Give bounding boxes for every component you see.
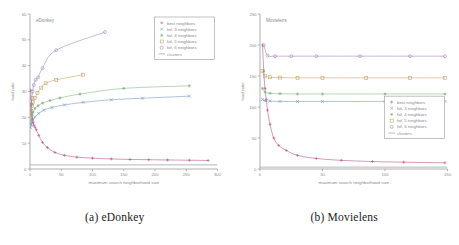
x-tick-label: 100 <box>89 172 97 177</box>
x-tick-label: 50 <box>59 172 64 177</box>
data-point <box>402 161 405 164</box>
data-point <box>207 159 210 162</box>
legend-label: fof, 5 neighbors <box>397 118 427 123</box>
legend-label: fof, 4 neighbors <box>167 33 197 38</box>
series-fof-5-neighbors <box>261 70 447 80</box>
data-point <box>339 159 342 162</box>
data-point <box>110 157 113 160</box>
y-tick-label: 250 <box>249 12 257 17</box>
x-tick-label: 150 <box>444 172 452 177</box>
legend-marker <box>160 34 163 37</box>
data-point <box>272 137 275 140</box>
data-point <box>188 159 191 162</box>
y-tick-label: 50 <box>251 136 256 141</box>
data-point <box>122 87 125 90</box>
y-axis-label: load ratio <box>240 82 245 101</box>
series-fof-4-neighbors <box>29 84 191 125</box>
x-tick-label: 150 <box>120 172 128 177</box>
plot-title-annotation: eDonkey <box>36 18 55 23</box>
data-point <box>296 154 299 157</box>
x-tick-label: 200 <box>152 172 160 177</box>
series-best-neighbors <box>29 89 210 162</box>
legend-label: best neighbors <box>397 100 425 105</box>
chart-svg-movielens: 050100150050100150200250maximum search n… <box>230 0 459 205</box>
data-point <box>371 160 374 163</box>
chart-legend: best neighborsfof, 3 neighborsfof, 4 nei… <box>155 17 215 60</box>
data-point <box>268 92 271 95</box>
data-point <box>37 112 40 115</box>
data-point <box>321 92 324 95</box>
y-tick-label: 100 <box>249 105 257 110</box>
data-point <box>63 154 66 157</box>
plot-title-annotation: Movielens <box>266 18 287 23</box>
chart-legend: best neighborsfof, 3 neighborsfof, 4 nei… <box>384 96 444 138</box>
series-fof-4-neighbors <box>261 87 447 96</box>
data-point <box>54 151 57 154</box>
data-point <box>263 91 266 94</box>
data-point <box>41 102 44 105</box>
legend-label: fof, 3 neighbors <box>167 27 197 32</box>
data-point <box>188 84 191 87</box>
chart-panel-edonkey: 0501001502002503000102030405060maximum s… <box>0 0 230 205</box>
legend-label: clusters <box>167 52 182 57</box>
data-point <box>383 92 386 95</box>
x-tick-label: 100 <box>381 172 389 177</box>
y-tick-label: 0 <box>254 167 257 172</box>
data-point <box>261 87 264 90</box>
y-tick-label: 10 <box>22 141 27 146</box>
series-fof-6-neighbors <box>262 44 446 58</box>
legend-label: fof, 3 neighbors <box>397 106 427 111</box>
data-point <box>37 134 40 137</box>
data-point <box>166 158 169 161</box>
data-point <box>79 93 82 96</box>
legend-label: fof, 6 neighbors <box>397 124 427 129</box>
y-tick-label: 30 <box>22 89 27 94</box>
data-point <box>278 92 281 95</box>
caption-edonkey: (a) eDonkey <box>0 205 230 245</box>
y-tick-label: 150 <box>249 74 257 79</box>
legend-label: fof, 5 neighbors <box>167 39 197 44</box>
figure-container: 0501001502002503000102030405060maximum s… <box>0 0 459 245</box>
data-point <box>91 157 94 160</box>
x-axis-label: maximum search neighborhood size <box>318 180 389 185</box>
data-point <box>129 158 132 161</box>
legend-label: fof, 6 neighbors <box>167 45 197 50</box>
data-point <box>284 149 287 152</box>
data-point <box>443 92 446 95</box>
x-tick-label: 0 <box>258 172 261 177</box>
y-tick-label: 200 <box>249 43 257 48</box>
data-point <box>75 156 78 159</box>
y-axis-label: load ratio <box>10 82 15 101</box>
chart-panel-movielens: 050100150050100150200250maximum search n… <box>230 0 459 205</box>
data-point <box>268 123 271 126</box>
data-point <box>443 161 446 164</box>
y-tick-label: 40 <box>22 63 27 68</box>
data-point <box>59 96 62 99</box>
data-point <box>147 158 150 161</box>
figure-captions: (a) eDonkey (b) Movielens <box>0 205 459 245</box>
chart-svg-edonkey: 0501001502002503000102030405060maximum s… <box>0 0 230 205</box>
y-tick-label: 60 <box>22 12 27 17</box>
data-point <box>34 115 37 118</box>
data-point <box>314 157 317 160</box>
data-point <box>35 128 38 131</box>
x-axis-label: maximum search neighborhood size <box>88 180 159 185</box>
y-tick-label: 50 <box>22 37 27 42</box>
x-tick-label: 50 <box>320 172 325 177</box>
data-point <box>42 109 45 112</box>
legend-label: fof, 4 neighbors <box>397 112 427 117</box>
data-point <box>296 92 299 95</box>
legend-label: best neighbors <box>167 21 195 26</box>
y-tick-label: 0 <box>24 167 27 172</box>
x-tick-label: 250 <box>183 172 191 177</box>
x-tick-label: 0 <box>29 172 32 177</box>
y-tick-label: 20 <box>22 115 27 120</box>
legend-label: clusters <box>397 131 412 136</box>
caption-movielens: (b) Movielens <box>230 205 459 245</box>
data-point <box>49 99 52 102</box>
x-tick-label: 300 <box>214 172 222 177</box>
chart-panels: 0501001502002503000102030405060maximum s… <box>0 0 459 205</box>
data-point <box>266 109 269 112</box>
